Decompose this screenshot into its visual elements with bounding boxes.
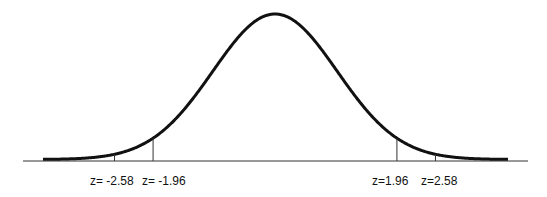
normal-distribution-chart: z= -2.58 z= -1.96 z=1.96 z=2.58 xyxy=(0,0,547,197)
label-z-neg-1-96: z= -1.96 xyxy=(142,174,186,188)
label-z-pos-2-58: z=2.58 xyxy=(421,174,457,188)
z-marker-lines xyxy=(115,138,436,161)
normal-curve xyxy=(43,14,508,159)
chart-plot-area xyxy=(0,0,547,197)
label-z-neg-2-58: z= -2.58 xyxy=(90,174,134,188)
label-z-pos-1-96: z=1.96 xyxy=(372,174,408,188)
